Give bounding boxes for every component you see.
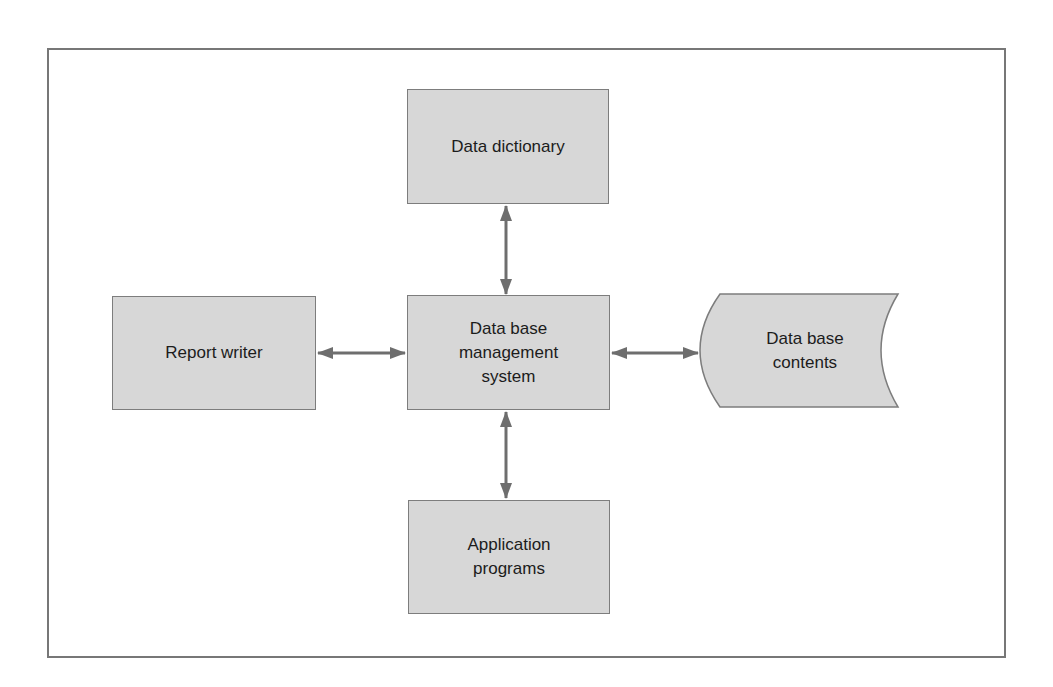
node-report-writer: Report writer [112, 296, 316, 410]
node-label: Data base contents [766, 327, 844, 375]
node-label: Data dictionary [451, 135, 564, 159]
node-label: Report writer [165, 341, 262, 365]
node-application-programs: Application programs [408, 500, 610, 614]
node-label: Application programs [467, 533, 550, 581]
node-label: Data base management system [459, 317, 558, 389]
node-data-dictionary: Data dictionary [407, 89, 609, 204]
node-dbms: Data base management system [407, 295, 610, 410]
node-db-contents: Data base contents [715, 294, 895, 407]
